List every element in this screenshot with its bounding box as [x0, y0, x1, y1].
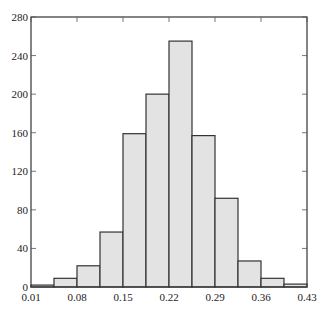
x-tick-label: 0.15 [113, 291, 133, 303]
histogram-bar [192, 136, 215, 287]
histogram-bars [31, 41, 307, 287]
histogram-chart: 04080120160200240280 0.010.080.150.220.2… [0, 0, 332, 316]
y-tick-label: 80 [17, 204, 29, 216]
histogram-bar [77, 266, 100, 287]
histogram-bar [238, 261, 261, 287]
y-tick-label: 280 [12, 11, 29, 23]
x-tick-label: 0.01 [21, 291, 40, 303]
y-tick-label: 120 [12, 165, 29, 177]
histogram-bar [215, 198, 238, 287]
histogram-bar [100, 232, 123, 287]
histogram-bar [261, 278, 284, 287]
x-tick-label: 0.29 [205, 291, 225, 303]
histogram-bar [169, 41, 192, 287]
x-tick-label: 0.43 [297, 291, 317, 303]
x-tick-label: 0.22 [159, 291, 178, 303]
histogram-bar [146, 94, 169, 287]
y-tick-label: 40 [17, 242, 29, 254]
histogram-bar [54, 278, 77, 287]
x-tick-label: 0.36 [251, 291, 271, 303]
y-tick-label: 160 [12, 127, 29, 139]
y-tick-label: 240 [12, 50, 29, 62]
histogram-bar [123, 134, 146, 287]
x-tick-label: 0.08 [67, 291, 87, 303]
y-tick-label: 200 [12, 88, 29, 100]
